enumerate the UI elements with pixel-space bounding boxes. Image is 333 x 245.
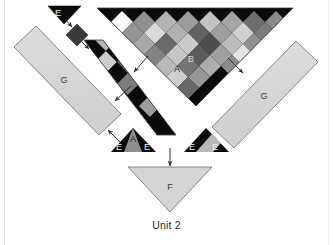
arrow-big-to-strip [134,56,148,72]
label-big-triangle-b: B [188,54,194,64]
arrow-e-to-diamond [65,19,72,27]
top-left-dark-diamond[interactable] [66,24,88,46]
figure-canvas: A B E [0,0,333,245]
unit-2-assembly-diagram: A B E [0,0,333,245]
label-left-g: G [60,75,67,85]
label-left-base-a: A [130,134,136,144]
label-left-base-e2: E [144,142,150,152]
top-left-e-triangle[interactable]: E [48,6,81,24]
label-right-base-e2: E [212,142,218,152]
label-big-triangle-a: A [174,64,180,74]
label-right-g: G [260,91,267,101]
label-bottom-f: F [167,182,173,192]
label-top-left-e: E [55,8,61,18]
figure-caption: Unit 2 [0,219,333,231]
bottom-f-triangle[interactable]: F [128,167,212,212]
arrow-base-to-left-g [108,130,120,142]
label-right-base-e1: E [189,142,195,152]
label-left-base-e1: E [116,142,122,152]
